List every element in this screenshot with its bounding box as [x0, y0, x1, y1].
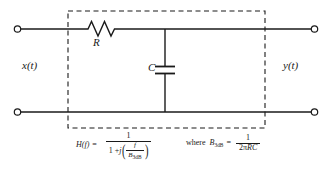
- inner-numerator-f: f: [132, 142, 138, 150]
- resistor-label: R: [93, 37, 100, 48]
- inner-denominator-subscript: 3dB: [133, 154, 142, 160]
- bandwidth-fraction: 1 2πRC: [236, 134, 260, 153]
- circuit-schematic-svg: [0, 0, 330, 175]
- inner-ratio-fraction: f B3dB: [126, 142, 143, 159]
- where-keyword: where: [186, 139, 206, 147]
- transfer-function-formula: H(f) = 1 1 + j ( f B3dB ): [76, 132, 153, 159]
- transfer-function-fraction: 1 1 + j ( f B3dB ): [106, 132, 151, 159]
- bandwidth-denominator: 2πRC: [236, 144, 260, 153]
- bandwidth-formula: where B3dB = 1 2πRC: [186, 134, 262, 153]
- transfer-function-denominator: 1 + j ( f B3dB ): [106, 142, 151, 159]
- close-paren-icon: ): [145, 145, 149, 157]
- transfer-function-equals: =: [89, 141, 100, 149]
- capacitor-label: C: [148, 62, 155, 73]
- bandwidth-equals: =: [223, 139, 234, 147]
- bandwidth-denominator-rc: RC: [247, 143, 257, 152]
- input-bottom-terminal-icon: [14, 109, 20, 115]
- output-top-terminal-icon: [311, 26, 317, 32]
- output-bottom-terminal-icon: [311, 109, 317, 115]
- inner-denominator-b3db: B3dB: [126, 151, 143, 159]
- resistor-zigzag: [85, 22, 118, 37]
- inner-denominator-base: B: [128, 151, 132, 159]
- input-signal-label: x(t): [22, 60, 37, 71]
- transfer-function-lhs: H(f): [76, 141, 89, 149]
- open-paren-icon: (: [122, 145, 126, 157]
- bandwidth-symbol-subscript: 3dB: [214, 143, 223, 149]
- input-top-terminal-icon: [14, 26, 20, 32]
- bandwidth-numerator: 1: [243, 134, 253, 143]
- denominator-one-plus: 1 +: [109, 147, 120, 155]
- rc-lowpass-filter-figure: R C x(t) y(t) H(f) = 1 1 + j ( f: [0, 0, 330, 175]
- output-signal-label: y(t): [283, 60, 298, 71]
- transfer-function-numerator: 1: [124, 132, 134, 141]
